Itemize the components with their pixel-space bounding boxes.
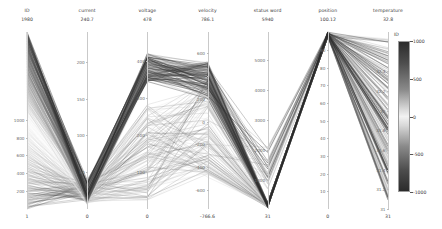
- axis-max-value: 240.7: [81, 17, 94, 22]
- axis-tick-label: 200: [137, 132, 145, 137]
- axis-tick-label: 70: [320, 83, 325, 88]
- axis-line: [208, 32, 209, 209]
- axis-tick-mark: [146, 135, 148, 136]
- axis-tick-mark: [207, 99, 209, 100]
- axis-tick-label: 400: [197, 74, 205, 79]
- axis-tick-mark: [207, 122, 209, 123]
- axis-title: current: [79, 8, 96, 13]
- axis-tick-mark: [327, 68, 329, 69]
- axis-tick-label: 50: [320, 118, 325, 123]
- axis-title: status word: [254, 8, 282, 13]
- axis-min-value: -766.6: [200, 214, 215, 219]
- axis-min-value: 31: [265, 214, 271, 219]
- axis-max-value: 1980: [21, 17, 33, 22]
- axis-title: temperature: [373, 8, 403, 13]
- axis-tick-mark: [146, 98, 148, 99]
- axis-tick-mark: [387, 111, 389, 112]
- axis-line: [87, 32, 88, 209]
- axis-tick-mark: [26, 138, 28, 139]
- axis-max-value: 478: [143, 17, 152, 22]
- axis-tick-label: 600: [197, 51, 205, 56]
- axis-min-value: 0: [326, 214, 329, 219]
- axis-tick-mark: [387, 71, 389, 72]
- axis-tick-label: 0: [202, 119, 205, 124]
- axis-tick-label: 200: [77, 59, 85, 64]
- axis-tick-label: 32: [380, 108, 385, 113]
- axis-tick-label: 800: [17, 135, 25, 140]
- axis-tick-mark: [207, 190, 209, 191]
- axis-tick-label: 150: [77, 96, 85, 101]
- colorbar-tick-label: -1000: [413, 190, 426, 195]
- axis-line: [388, 32, 389, 209]
- axis-tick-label: 3000: [254, 118, 265, 123]
- axis-tick-mark: [327, 174, 329, 175]
- axis-tick-mark: [207, 76, 209, 77]
- axis-tick-label: 31.8: [376, 128, 385, 133]
- axis-tick-mark: [207, 167, 209, 168]
- axis-tick-mark: [387, 130, 389, 131]
- axis-tick-mark: [146, 61, 148, 62]
- axis-tick-label: -200: [195, 142, 205, 147]
- axis-tick-label: 80: [320, 65, 325, 70]
- axis-title: velocity: [198, 8, 217, 13]
- axis-max-value: 786.1: [201, 17, 214, 22]
- axis-tick-mark: [327, 85, 329, 86]
- axis-tick-mark: [267, 120, 269, 121]
- axis-tick-label: 2000: [254, 148, 265, 153]
- colorbar-title: ID: [394, 32, 399, 37]
- axis-tick-label: 90: [320, 47, 325, 52]
- axis-tick-label: 1000: [14, 117, 25, 122]
- axis-tick-mark: [86, 99, 88, 100]
- axis-tick-label: 200: [17, 189, 25, 194]
- axis-tick-label: 20: [320, 171, 325, 176]
- parallel-coordinates-chart: ID198011000800600400200current240.702001…: [0, 0, 442, 229]
- colorbar-tick-mark: [410, 154, 413, 155]
- axis-tick-mark: [86, 172, 88, 173]
- axis-tick-label: 4000: [254, 88, 265, 93]
- axis-tick-label: 31.6: [376, 148, 385, 153]
- axis-tick-label: -400: [195, 165, 205, 170]
- axis-tick-label: -600: [195, 188, 205, 193]
- colorbar-tick-label: -500: [413, 152, 423, 157]
- axis-tick-label: 31: [380, 207, 385, 212]
- axis-tick-mark: [327, 138, 329, 139]
- axis-tick-mark: [387, 150, 389, 151]
- axis-tick-mark: [387, 170, 389, 171]
- axis-tick-mark: [26, 191, 28, 192]
- colorbar-tick-label: 0: [413, 114, 416, 119]
- axis-min-value: 31: [385, 214, 391, 219]
- axis-tick-label: 31.2: [376, 187, 385, 192]
- axis-tick-mark: [86, 62, 88, 63]
- polyline-series-layer: [0, 0, 442, 229]
- colorbar: [398, 41, 410, 192]
- axis-tick-mark: [267, 180, 269, 181]
- axis-tick-mark: [327, 121, 329, 122]
- colorbar-gradient: [398, 41, 410, 192]
- colorbar-tick-label: 1000: [413, 39, 425, 44]
- axis-tick-mark: [267, 150, 269, 151]
- axis-tick-mark: [387, 189, 389, 190]
- axis-tick-label: 300: [137, 95, 145, 100]
- axis-title: position: [318, 8, 337, 13]
- axis-tick-label: 40: [320, 136, 325, 141]
- axis-tick-label: 1000: [254, 177, 265, 182]
- axis-min-value: 0: [86, 214, 89, 219]
- axis-tick-mark: [327, 50, 329, 51]
- axis-tick-label: 5000: [254, 58, 265, 63]
- axis-tick-label: 31.4: [376, 167, 385, 172]
- axis-min-value: 0: [146, 214, 149, 219]
- axis-max-value: 5940: [262, 17, 274, 22]
- axis-tick-label: 100: [137, 169, 145, 174]
- axis-max-value: 32.8: [383, 17, 393, 22]
- colorbar-tick-mark: [410, 41, 413, 42]
- axis-min-value: 1: [26, 214, 29, 219]
- colorbar-tick-mark: [410, 192, 413, 193]
- axis-tick-mark: [267, 60, 269, 61]
- colorbar-tick-label: 500: [413, 76, 422, 81]
- axis-tick-mark: [26, 120, 28, 121]
- axis-tick-label: 32.2: [376, 89, 385, 94]
- axis-tick-label: 600: [17, 153, 25, 158]
- axis-tick-label: 32.4: [376, 69, 385, 74]
- axis-tick-mark: [207, 53, 209, 54]
- axis-tick-mark: [387, 91, 389, 92]
